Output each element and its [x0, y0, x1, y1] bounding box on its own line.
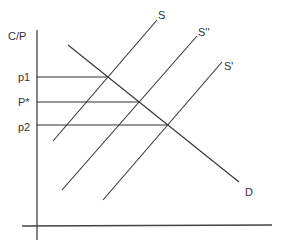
curve-label-s-double-prime: S'' — [198, 26, 210, 38]
price-label-p2: p2 — [18, 121, 30, 133]
curve-label-s: S — [158, 9, 165, 21]
supply-curve-s — [53, 20, 157, 141]
x-axis — [22, 225, 272, 226]
curve-label-s-prime: S' — [224, 60, 233, 72]
price-label-pstar: P* — [18, 96, 30, 108]
supply-demand-diagram: C/P p1 P* p2 S S'' S' D — [0, 0, 283, 251]
y-axis-label: C/P — [8, 30, 26, 42]
supply-curve-s-prime — [103, 62, 222, 200]
supply-curve-s-double-prime — [62, 36, 197, 190]
curve-label-d: D — [245, 186, 253, 198]
price-label-p1: p1 — [18, 71, 30, 83]
demand-curve — [68, 45, 239, 182]
